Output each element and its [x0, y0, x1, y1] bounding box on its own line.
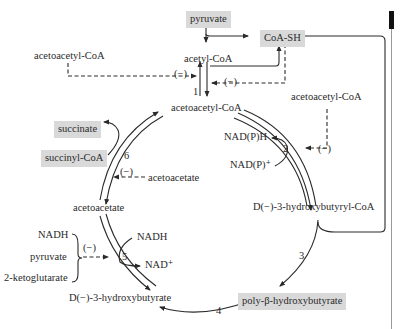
node-succinyl-coa: succinyl-CoA	[41, 150, 107, 167]
node-acetoacetyl-coa-center: acetoacetyl-CoA	[171, 103, 242, 114]
step-6-label: 6	[124, 151, 129, 162]
node-acetoacetyl-coa-right: acetoacetyl-CoA	[291, 92, 362, 103]
inhibition-label: (−)	[318, 144, 331, 155]
inhibition-label: (−)	[120, 167, 133, 178]
node-acetoacetyl-coa-left: acetoacetyl-CoA	[34, 51, 105, 62]
node-nadp-plus: NAD(P)⁺	[230, 160, 271, 171]
node-succinate: succinate	[54, 121, 101, 138]
page-edge-bar	[389, 11, 394, 29]
node-nadh-left: NADH	[38, 230, 68, 241]
step-2-label: 2	[283, 144, 288, 155]
node-acetoacetate: acetoacetate	[73, 203, 124, 214]
step-5-label: 5	[122, 252, 127, 263]
node-pyruvate-top: pyruvate	[186, 11, 231, 28]
node-pyruvate-left: pyruvate	[30, 252, 67, 263]
node-acetyl-coa: acetyl-CoA	[184, 54, 232, 65]
node-nadh-right: NADH	[137, 232, 167, 243]
node-poly-hydroxybutyrate: poly-β-hydroxybutyrate	[238, 293, 346, 310]
inhibition-label: (−)	[174, 69, 187, 80]
inhibition-label: (−)	[224, 77, 237, 88]
step-3-label: 3	[299, 251, 304, 262]
node-coa-sh: CoA-SH	[260, 30, 305, 47]
step-1-label: 1	[193, 87, 198, 98]
node-nadph: NAD(P)H	[224, 132, 267, 143]
node-hydroxybutyrate: D(−)-3-hydroxybutyrate	[69, 293, 171, 304]
node-acetoacetate-inhibitor: acetoacetate	[148, 173, 199, 184]
step-4-label: 4	[216, 306, 221, 317]
node-2-ketoglutarate: 2-ketoglutarate	[4, 273, 68, 284]
page-edge-line	[391, 29, 392, 329]
node-nad-plus: NAD⁺	[145, 260, 173, 271]
node-hydroxybutyryl-coa: D(−)-3-hydroxybutyryl-CoA	[253, 202, 374, 213]
inhibition-label: (−)	[83, 243, 96, 254]
